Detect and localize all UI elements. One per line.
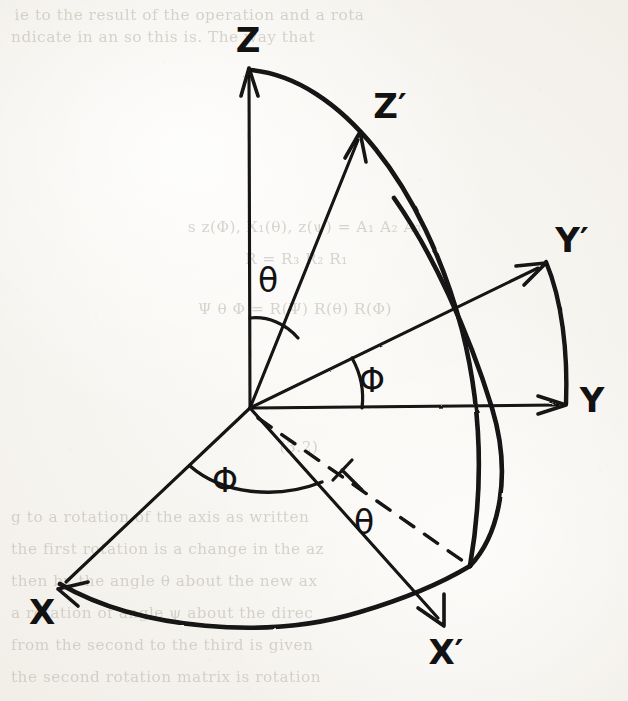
angle-arc-theta-upper: [250, 318, 298, 338]
axis-label-y: Y: [579, 380, 605, 420]
axis-z-line: [249, 76, 250, 408]
arc-yprime-sphere: [394, 198, 502, 566]
axis-label-z: Z: [236, 20, 261, 60]
angle-label-theta-lower: θ: [354, 503, 374, 542]
axis-label-z-prime: Z′: [373, 86, 407, 126]
axis-y-line: [250, 405, 558, 408]
axis-x-prime-line: [250, 408, 438, 618]
axis-y-prime-line: [250, 268, 538, 408]
axis-label-y-prime: Y′: [554, 220, 589, 260]
angle-arc-phi-lower: [190, 466, 322, 492]
arc-x-to-xprime: [60, 566, 470, 628]
right-angle-tick: [333, 460, 362, 490]
diagram-labels: Z Z′ Y Y′ X X′ θ Φ Φ θ: [29, 20, 605, 672]
axis-y-prime-arrowhead: [516, 263, 546, 285]
scanned-page: ie to the result of the operation and a …: [0, 0, 628, 701]
axis-label-x: X: [29, 592, 55, 632]
angle-label-phi-upper: Φ: [359, 361, 385, 400]
angle-label-phi-lower: Φ: [212, 461, 238, 500]
angle-label-theta-upper: θ: [258, 261, 278, 300]
coordinate-rotation-diagram: Z Z′ Y Y′ X X′ θ Φ Φ θ: [0, 0, 628, 701]
axis-label-x-prime: X′: [428, 632, 463, 672]
arc-sphere-rim-right: [546, 262, 566, 404]
